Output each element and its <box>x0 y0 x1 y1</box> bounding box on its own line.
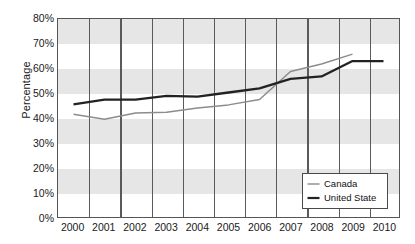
y-tick-10: 10% <box>14 188 54 199</box>
legend-label-canada: Canada <box>324 179 357 189</box>
vertical-gridline <box>245 19 246 217</box>
y-tick-60: 60% <box>14 63 54 74</box>
x-tick-2010: 2010 <box>364 221 404 234</box>
legend-label-united-state: United State <box>324 193 376 203</box>
y-tick-30: 30% <box>14 138 54 149</box>
legend: Canada United State <box>302 173 388 209</box>
y-axis-tick-labels: 0%10%20%30%40%50%60%70%80% <box>14 18 54 218</box>
legend-line-swatch-united-state <box>307 195 320 201</box>
legend-item-united-state: United State <box>307 191 383 205</box>
y-tick-80: 80% <box>14 13 54 24</box>
y-tick-70: 70% <box>14 38 54 49</box>
y-tick-40: 40% <box>14 113 54 124</box>
legend-line-swatch-canada <box>307 181 320 187</box>
y-tick-20: 20% <box>14 163 54 174</box>
vertical-gridline <box>183 19 184 217</box>
plot-area: Canada United State <box>57 18 400 218</box>
vertical-gridline <box>89 19 90 217</box>
y-tick-50: 50% <box>14 88 54 99</box>
line-chart: Percentage 0%10%20%30%40%50%60%70%80% Ca… <box>0 0 415 244</box>
vertical-gridline <box>214 19 215 217</box>
vertical-gridline <box>152 19 153 217</box>
legend-item-canada: Canada <box>307 177 383 191</box>
vertical-gridline <box>276 19 277 217</box>
vertical-gridline <box>120 19 121 217</box>
x-axis-tick-labels: 2000200120022003200420052006200720082009… <box>57 221 400 239</box>
y-tick-0: 0% <box>14 213 54 224</box>
